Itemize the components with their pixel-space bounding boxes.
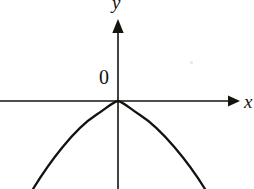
y-axis-arrowhead-icon xyxy=(112,19,123,33)
parabola-curve xyxy=(33,101,205,189)
origin-label: 0 xyxy=(99,67,109,87)
scan-speck xyxy=(190,61,193,64)
x-axis-arrowhead-icon xyxy=(228,96,240,107)
math-figure: 0 y x xyxy=(0,0,254,189)
parabola-plot xyxy=(0,0,254,189)
x-axis-label: x xyxy=(244,92,252,111)
y-axis-label: y xyxy=(112,0,120,12)
